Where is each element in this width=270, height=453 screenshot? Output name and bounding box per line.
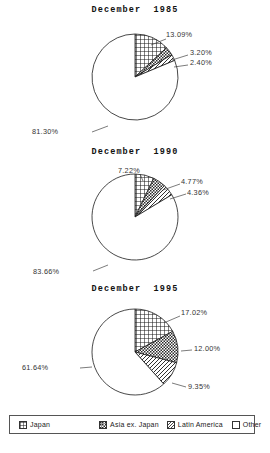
pie-chart-block-1985: December 1985 13.09% 3.20% 2.40% 81.30%: [0, 0, 270, 145]
pie-slices-1995: [92, 309, 178, 395]
leader-line-latam: [172, 383, 186, 387]
pct-label-japan-1985: 13.09%: [166, 30, 192, 39]
legend-label-asia-ex-japan: Asia ex. Japan: [110, 421, 159, 428]
pie-slices-1985: [92, 34, 178, 120]
pct-label-other-1985: 81.30%: [32, 127, 58, 136]
leader-line-asia: [172, 55, 188, 60]
legend-swatch-japan-icon: [19, 421, 27, 429]
pct-label-japan-1995: 17.02%: [181, 308, 207, 317]
legend-label-japan: Japan: [30, 421, 50, 428]
leader-line-other: [80, 367, 92, 368]
pie-chart-block-1995: December 1995 17.02% 12.00% 9.35% 61.64%: [0, 282, 270, 415]
pct-label-other-1995: 61.64%: [22, 363, 48, 372]
leader-line-other: [92, 126, 108, 132]
leader-line-asia: [181, 350, 192, 351]
pie-wrap-1990: 7.22% 4.77% 4.36% 83.66%: [0, 157, 270, 275]
chart-title-1985: December 1985: [0, 0, 270, 15]
pie-svg-1995: [0, 294, 270, 409]
legend-item-asia-ex-japan[interactable]: Asia ex. Japan: [99, 421, 159, 429]
leader-line-other: [93, 265, 108, 271]
pie-wrap-1985: 13.09% 3.20% 2.40% 81.30%: [0, 15, 270, 135]
legend-item-latin-america[interactable]: Latin America: [167, 421, 223, 429]
pct-label-latam-1995: 9.35%: [188, 382, 210, 391]
pct-label-latam-1990: 4.36%: [187, 188, 209, 197]
pct-label-asia-1985: 3.20%: [190, 48, 212, 57]
legend-swatch-latin-america-icon: [167, 421, 175, 429]
pie-svg-1985: [0, 15, 270, 135]
legend-item-japan[interactable]: Japan: [19, 421, 50, 429]
pct-label-other-1990: 83.66%: [33, 267, 59, 276]
chart-title-1990: December 1990: [0, 145, 270, 157]
legend-label-latin-america: Latin America: [178, 421, 223, 428]
pie-chart-block-1990: December 1990 7.22% 4.77% 4.36% 83.66%: [0, 145, 270, 282]
chart-title-1995: December 1995: [0, 282, 270, 294]
pct-label-asia-1995: 12.00%: [194, 344, 220, 353]
pct-label-latam-1985: 2.40%: [190, 58, 212, 67]
pie-wrap-1995: 17.02% 12.00% 9.35% 61.64%: [0, 294, 270, 409]
legend-swatch-asia-ex-japan-icon: [99, 421, 107, 429]
legend: Japan Asia ex. Japan Latin America Other: [9, 415, 255, 434]
legend-label-other: Other: [243, 421, 262, 428]
legend-swatch-other-icon: [232, 421, 240, 429]
pct-label-japan-1990: 7.22%: [118, 166, 140, 175]
pct-label-asia-1990: 4.77%: [181, 177, 203, 186]
legend-item-other[interactable]: Other: [232, 421, 262, 429]
pie-slices-1990: [92, 174, 178, 260]
leader-line-japan: [166, 316, 180, 322]
